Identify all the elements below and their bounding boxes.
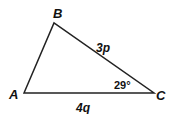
vertex-label-b: B — [53, 6, 62, 21]
vertex-label-c: C — [156, 88, 166, 103]
side-label-bc: 3p — [96, 41, 110, 55]
angle-label-c: 29° — [114, 79, 131, 91]
vertex-label-a: A — [8, 87, 18, 102]
triangle-abc — [24, 23, 154, 93]
triangle-diagram: A B C 3p 4q 29° — [0, 0, 172, 114]
side-label-ac: 4q — [75, 101, 91, 114]
